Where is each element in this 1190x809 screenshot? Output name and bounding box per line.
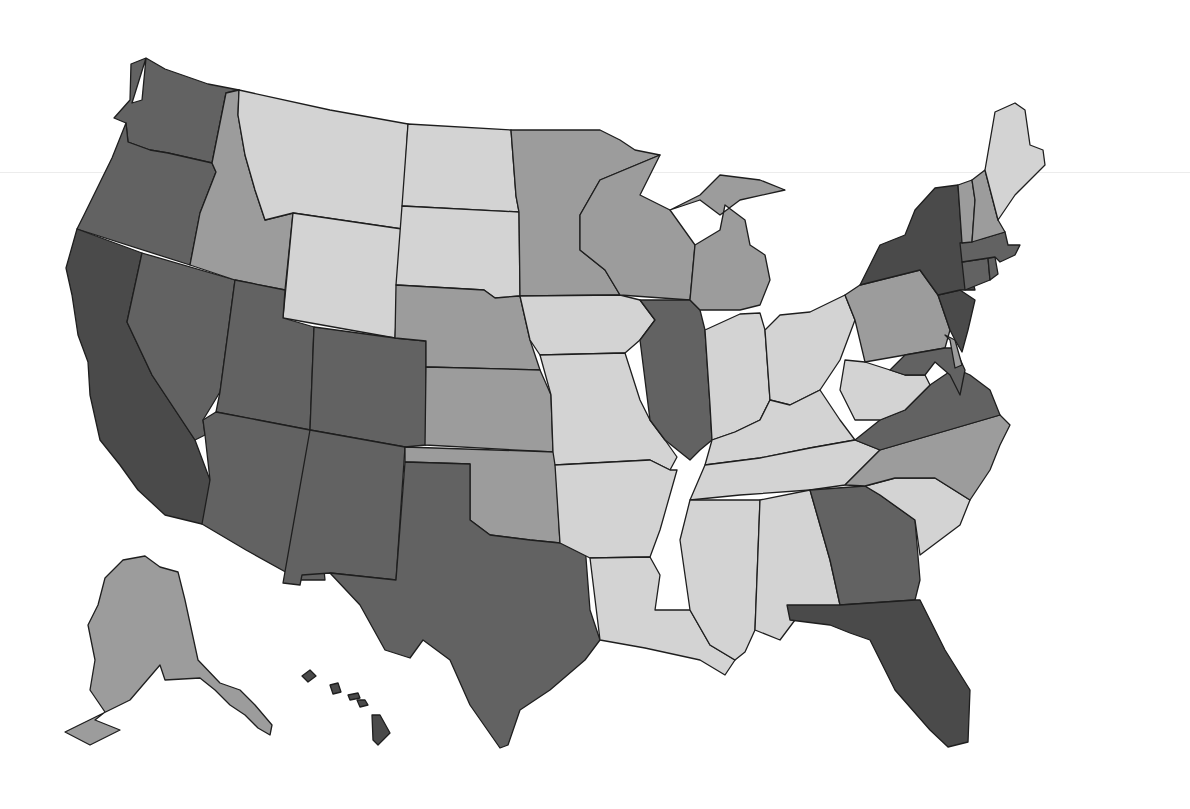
state-arkansas[interactable]: Arkansas <box>555 460 677 558</box>
state-rhode-island[interactable]: Rhode Island <box>988 257 998 280</box>
state-montana[interactable]: Montana <box>238 90 408 229</box>
state-kansas[interactable]: Kansas <box>425 367 553 452</box>
state-colorado[interactable]: Colorado <box>310 327 426 447</box>
state-connecticut[interactable]: Connecticut <box>962 258 990 290</box>
state-north-dakota[interactable]: North Dakota <box>402 124 519 212</box>
state-maine[interactable]: Maine <box>985 103 1045 220</box>
state-hawaii[interactable]: Hawaii <box>302 670 390 745</box>
state-florida[interactable]: Florida <box>787 600 970 747</box>
state-wyoming[interactable]: Wyoming <box>283 213 402 338</box>
us-choropleth-map: Washington Oregon California Nevada Idah… <box>0 0 1190 809</box>
state-alaska[interactable]: Alaska <box>65 556 272 745</box>
state-iowa[interactable]: Iowa <box>520 295 655 355</box>
state-south-dakota[interactable]: South Dakota <box>396 206 520 298</box>
